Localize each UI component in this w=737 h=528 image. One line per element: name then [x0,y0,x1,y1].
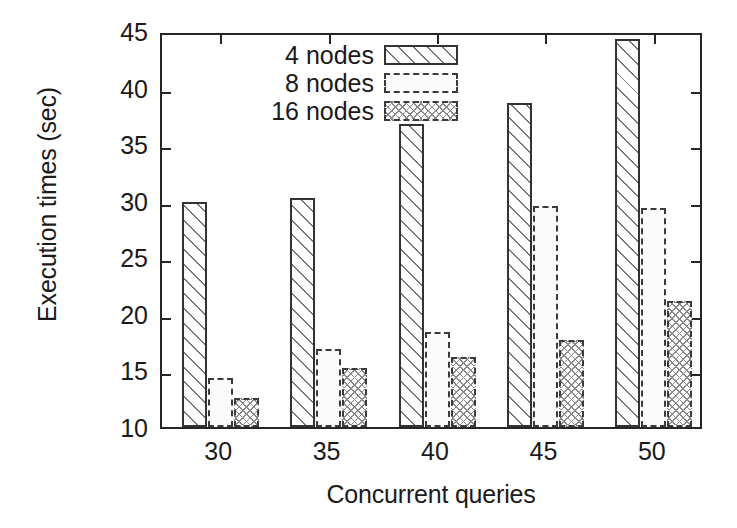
y-tick-label: 25 [90,246,148,271]
y-tick-label: 20 [90,303,148,328]
x-tick-label: 45 [508,437,578,466]
legend-swatch-4-nodes [384,45,458,65]
x-tick-mark [654,35,656,44]
y-tick-mark [162,92,171,94]
bar-45-4-nodes [507,103,532,427]
bar-30-8-nodes [208,378,233,427]
bar-50-8-nodes [641,208,666,427]
y-tick-label: 15 [90,359,148,384]
y-tick-mark [691,374,700,376]
legend-item: 4 nodes [198,41,458,69]
x-tick-label: 30 [183,437,253,466]
y-tick-mark [162,148,171,150]
bar-40-8-nodes [425,332,450,427]
legend: 4 nodes 8 nodes 16 nodes [198,41,458,125]
y-tick-mark [691,205,700,207]
plot-area: 4 nodes 8 nodes 16 nodes [160,33,702,429]
x-tick-label: 35 [292,437,362,466]
bar-45-8-nodes [533,206,558,427]
x-tick-mark [545,35,547,44]
y-tick-mark [162,261,171,263]
legend-label: 16 nodes [271,99,374,124]
bar-45-16-nodes [559,340,584,427]
x-tick-label: 50 [617,437,687,466]
legend-item: 8 nodes [198,69,458,97]
y-tick-mark [691,318,700,320]
y-tick-label: 35 [90,133,148,158]
y-tick-mark [691,261,700,263]
bar-35-16-nodes [342,368,367,427]
legend-label: 8 nodes [285,71,374,96]
y-tick-mark [691,92,700,94]
y-tick-mark [162,318,171,320]
legend-label: 4 nodes [285,43,374,68]
bar-40-16-nodes [451,357,476,427]
y-axis-title: Execution times (sec) [33,40,62,370]
legend-swatch-8-nodes [384,73,458,93]
bar-35-8-nodes [316,349,341,427]
y-tick-label: 30 [90,190,148,215]
x-axis-title: Concurrent queries [160,480,702,509]
bar-30-4-nodes [182,202,207,427]
bar-40-4-nodes [399,124,424,427]
x-tick-label: 40 [400,437,470,466]
bar-50-4-nodes [615,39,640,427]
bar-chart-figure: Execution times (sec) Concurrent queries… [0,0,737,528]
y-tick-label: 40 [90,77,148,102]
y-tick-mark [691,148,700,150]
bar-30-16-nodes [234,398,259,427]
legend-swatch-16-nodes [384,101,458,121]
y-tick-label: 45 [90,20,148,45]
bar-35-4-nodes [290,198,315,427]
y-axis-tick-labels: 1015202530354045 [84,0,148,528]
y-tick-mark [162,205,171,207]
y-tick-label: 10 [90,416,148,441]
y-tick-mark [162,374,171,376]
legend-item: 16 nodes [198,97,458,125]
bar-50-16-nodes [667,301,692,427]
